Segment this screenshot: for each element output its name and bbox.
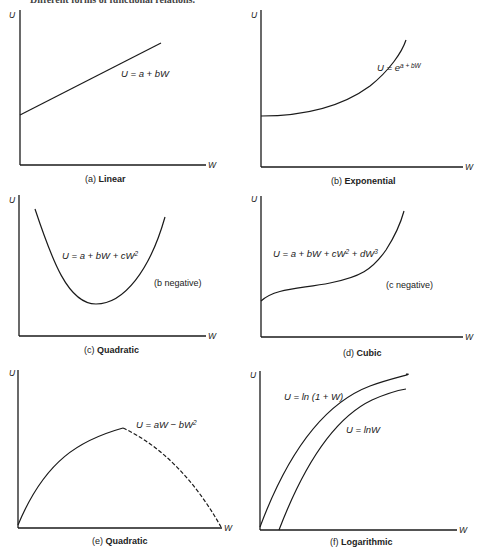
y-axis-label: U: [251, 10, 258, 20]
panel-caption: (e) Quadratic: [92, 536, 148, 546]
x-axis-label: W: [465, 332, 474, 342]
x-axis-label: W: [208, 160, 217, 170]
panel-caption: (b) Exponential: [331, 176, 396, 186]
panel-d-cubic: U W U = a + bW + cW2 + dW3 (c negative) …: [251, 194, 474, 358]
equation-label: U = a + bW + cW2: [62, 250, 139, 261]
y-axis-label: U: [9, 10, 16, 20]
linear-curve: [20, 43, 161, 115]
panel-caption: (a) Linear: [85, 174, 126, 184]
quadratic-curve-dashed: [123, 428, 221, 527]
quadratic-curve-solid: [18, 428, 123, 525]
ln-w-curve: [279, 389, 406, 530]
annotation-b-negative: (b negative): [154, 278, 202, 288]
exponential-curve: [261, 40, 406, 116]
x-axis-label: W: [224, 523, 233, 533]
equation-label: U = aW − bW2: [136, 419, 197, 430]
y-axis-label: U: [250, 370, 257, 380]
panel-e-quadratic: U W U = aW − bW2 (e) Quadratic: [9, 368, 233, 546]
equation-label: U = a + bW + cW2 + dW3: [273, 248, 378, 259]
panel-caption: (d) Cubic: [343, 348, 382, 358]
panel-caption: (c) Quadratic: [84, 345, 139, 355]
equation-label-ln-w: U = lnW: [346, 424, 381, 435]
x-axis-label: W: [459, 525, 468, 535]
panel-a-linear: U W U = a + bW (a) Linear: [9, 10, 217, 184]
equation-label: U = a + bW: [121, 68, 170, 79]
y-axis-label: U: [9, 368, 16, 378]
equation-label-ln-one-plus-w: U = ln (1 + W): [284, 391, 343, 402]
panel-c-quadratic: U W U = a + bW + cW2 (b negative) (c) Qu…: [9, 195, 217, 355]
y-axis-label: U: [9, 195, 16, 205]
x-axis-label: W: [465, 162, 474, 172]
equation-label: U = ea + bW: [377, 62, 422, 73]
annotation-c-negative: (c negative): [386, 280, 433, 290]
figure-canvas: U W U = a + bW (a) Linear U W U = ea + b…: [0, 0, 481, 556]
x-axis-label: W: [208, 331, 217, 341]
panel-caption: (f) Logarithmic: [330, 537, 393, 547]
panel-b-exponential: U W U = ea + bW (b) Exponential: [251, 10, 474, 186]
panel-f-logarithmic: U W U = ln (1 + W) U = lnW (f) Logarithm…: [250, 370, 468, 547]
y-axis-label: U: [251, 194, 258, 204]
